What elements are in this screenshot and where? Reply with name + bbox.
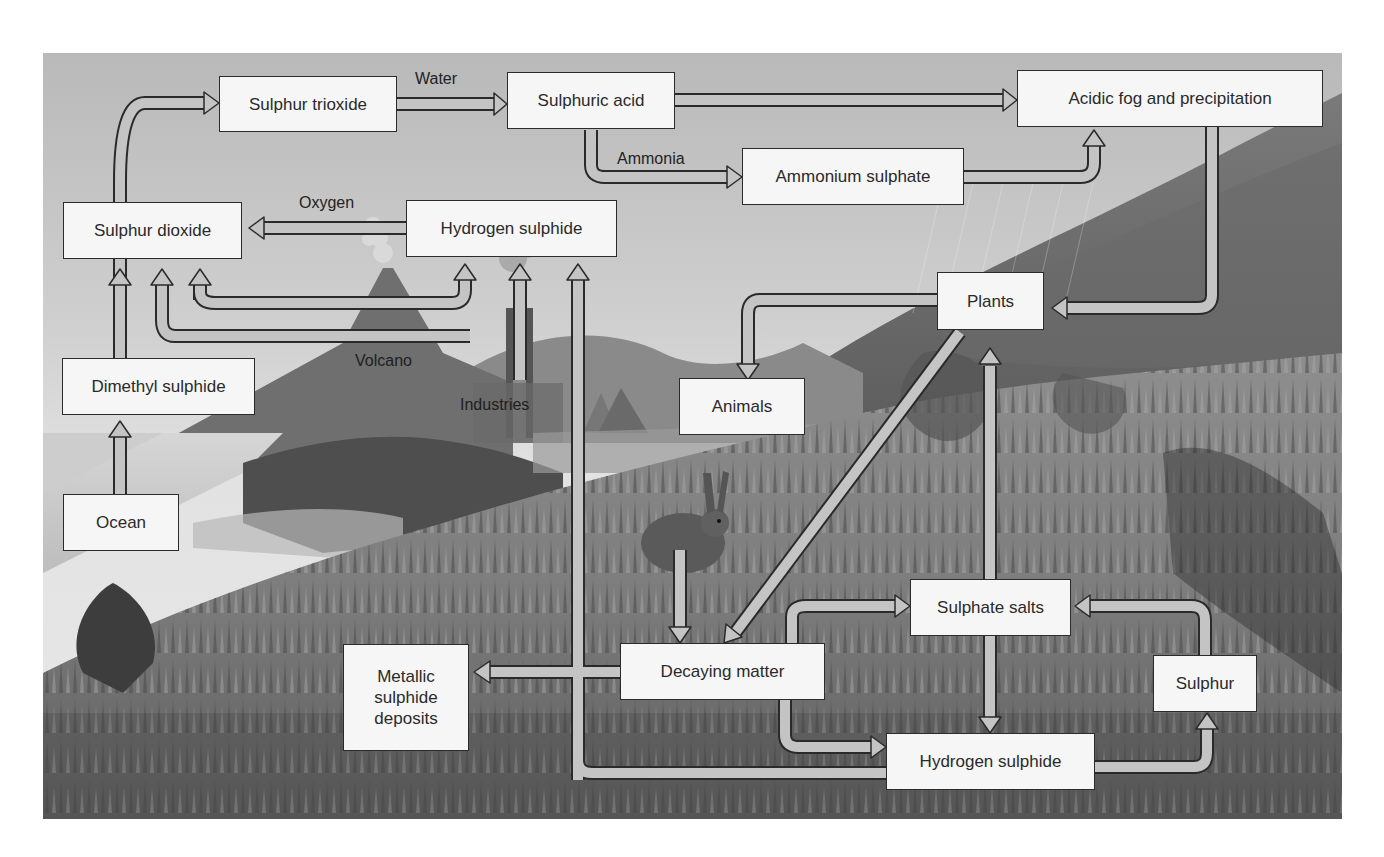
edge-label-oxygen: Oxygen [299, 194, 354, 212]
node-plants: Plants [937, 272, 1044, 330]
scene-label-industries: Industries [460, 396, 529, 414]
node-dimethyl-sulphide: Dimethyl sulphide [62, 358, 255, 415]
node-ocean: Ocean [63, 494, 179, 551]
node-sulphur: Sulphur [1153, 655, 1257, 712]
edge-label-ammonia: Ammonia [617, 150, 685, 168]
node-sulphate-salts: Sulphate salts [910, 579, 1071, 636]
node-metallic-sulphide-deposits: Metallic sulphide deposits [343, 644, 469, 751]
node-sulphur-dioxide: Sulphur dioxide [63, 202, 242, 259]
node-sulphur-trioxide: Sulphur trioxide [219, 76, 397, 132]
node-hydrogen-sulphide-soil: Hydrogen sulphide [886, 733, 1095, 790]
node-sulphuric-acid: Sulphuric acid [507, 72, 675, 129]
node-decaying-matter: Decaying matter [620, 643, 825, 700]
node-ammonium-sulphate: Ammonium sulphate [742, 148, 964, 205]
edge-label-water: Water [415, 70, 457, 88]
node-acidic-fog-and-precipitation: Acidic fog and precipitation [1017, 70, 1323, 127]
node-animals: Animals [679, 378, 805, 435]
scene-label-volcano: Volcano [355, 352, 412, 370]
node-hydrogen-sulphide-atmosphere: Hydrogen sulphide [406, 200, 617, 257]
